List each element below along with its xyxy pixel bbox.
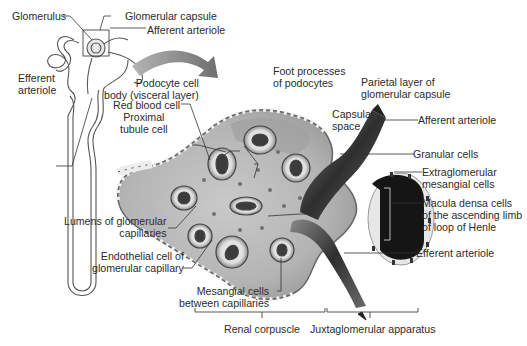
label-text: Renal corpuscle <box>224 323 300 335</box>
magnify-arrow <box>132 50 218 78</box>
label-parietal-layer: Parietal layer of glomerular capsule <box>361 76 451 100</box>
label-afferent-arteriole: Afferent arteriole <box>418 114 496 126</box>
label-text: glomerular capillary <box>92 262 184 274</box>
label-text: Juxtaglomerular apparatus <box>310 323 435 335</box>
label-podocyte: Podocyte cell body (visceral layer) <box>104 77 199 101</box>
label-granular-cells: Granular cells <box>413 148 478 160</box>
label-text: Lumens of glomerular <box>64 215 166 227</box>
label-text: Red blood cell <box>113 99 180 111</box>
brackets <box>195 308 418 318</box>
label-text: Granular cells <box>413 148 478 160</box>
label-text: mesangial cells <box>422 178 497 190</box>
label-text: Endothelial cell of <box>92 250 184 262</box>
label-text: tubule cell <box>120 123 168 135</box>
label-text: arteriole <box>18 84 56 96</box>
label-text: Efferent arteriole <box>416 247 494 259</box>
label-proximal-tubule-cell: Proximal tubule cell <box>120 111 168 135</box>
label-text: Afferent arteriole <box>147 24 225 36</box>
label-text: glomerular capsule <box>361 88 451 100</box>
label-text: Extraglomerular <box>422 166 497 178</box>
label-endothelial-cell: Endothelial cell of glomerular capillary <box>92 250 184 274</box>
label-text: Efferent <box>18 72 56 84</box>
label-efferent-arteriole: Efferent arteriole <box>416 247 494 259</box>
label-text: Parietal layer of <box>361 76 451 88</box>
label-text: Afferent arteriole <box>418 114 496 126</box>
label-text: Glomerular capsule <box>125 10 217 22</box>
label-text: of the ascending limb <box>422 209 522 221</box>
label-text: Capsular <box>332 108 374 120</box>
label-text: Podocyte cell <box>104 77 199 89</box>
label-extraglomerular-mesangial: Extraglomerular mesangial cells <box>422 166 497 190</box>
label-foot-processes: Foot processes of podocytes <box>273 65 345 89</box>
label-red-blood-cell: Red blood cell <box>113 99 180 111</box>
label-text: of podocytes <box>273 77 345 89</box>
label-lumens: Lumens of glomerular capillaries <box>64 215 166 239</box>
juxtaglomerular-diagram: Glomerulus Glomerular capsule Afferent a… <box>0 0 527 346</box>
label-text: of loop of Henle <box>422 221 522 233</box>
label-capsular-space: Capsular space <box>332 108 374 132</box>
label-macula-densa: Macula densa cells of the ascending limb… <box>422 197 522 233</box>
label-text: space <box>332 120 374 132</box>
label-text: Foot processes <box>273 65 345 77</box>
label-text: Glomerulus <box>12 10 66 22</box>
label-inset-efferent-arteriole: Efferent arteriole <box>18 72 56 96</box>
label-glomerulus: Glomerulus <box>12 10 66 22</box>
label-text: capillaries <box>64 227 166 239</box>
label-glomerular-capsule: Glomerular capsule <box>125 10 217 22</box>
label-text: between capillaries <box>179 297 269 309</box>
label-inset-afferent-arteriole: Afferent arteriole <box>147 24 225 36</box>
label-mesangial-cells: Mesangial cells between capillaries <box>179 285 269 309</box>
label-text: Macula densa cells <box>422 197 522 209</box>
label-text: Proximal <box>120 111 168 123</box>
label-juxtaglomerular-apparatus: Juxtaglomerular apparatus <box>310 323 435 335</box>
label-text: Mesangial cells <box>179 285 269 297</box>
label-renal-corpuscle: Renal corpuscle <box>224 323 300 335</box>
